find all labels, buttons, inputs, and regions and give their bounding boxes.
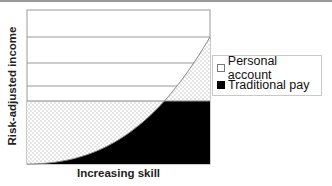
legend-item-personal-account: Personal account <box>217 59 321 76</box>
legend-swatch-black <box>217 81 225 89</box>
x-axis-label: Increasing skill <box>27 167 210 179</box>
legend-swatch-white <box>217 64 225 72</box>
legend: Personal account Traditional pay <box>212 55 322 96</box>
legend-item-traditional-pay: Traditional pay <box>217 76 321 93</box>
legend-label: Traditional pay <box>228 78 310 92</box>
y-axis-label: Risk-adjusted income <box>6 26 18 146</box>
